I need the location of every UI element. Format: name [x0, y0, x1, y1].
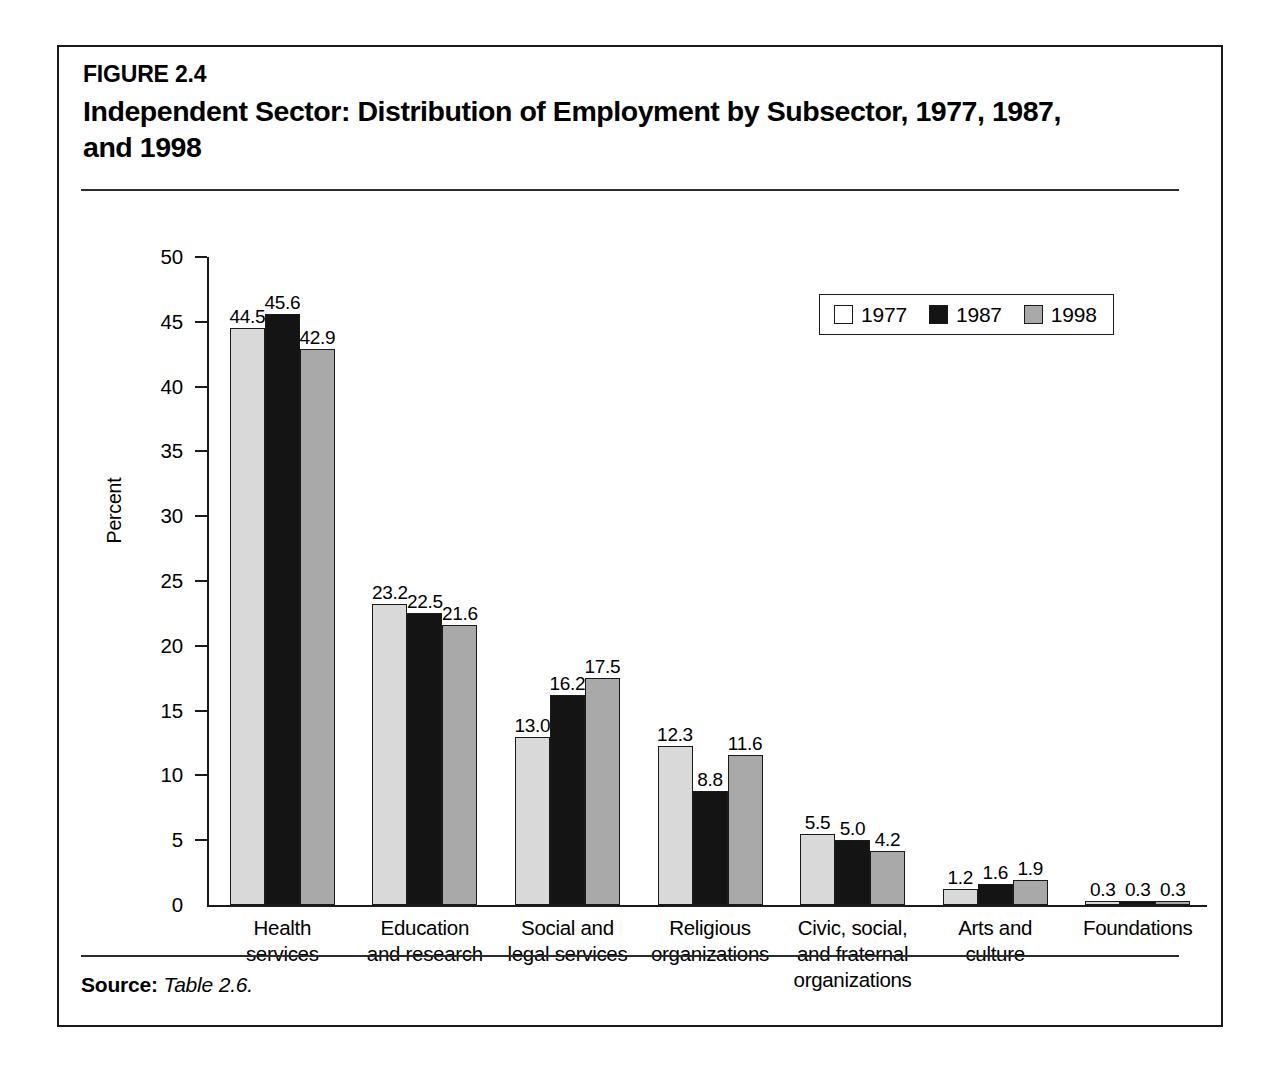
bar-value-label: 11.6	[728, 734, 762, 753]
y-axis-tick-label: 40	[121, 377, 183, 398]
category-label-line: Civic, social,	[781, 915, 924, 941]
y-axis-tick-label: 25	[121, 571, 183, 592]
title-divider	[81, 189, 1179, 191]
y-axis-tick-mark	[195, 580, 207, 582]
bar-1977-4: 12.3	[658, 746, 693, 905]
bar-value-label: 1.9	[1017, 859, 1043, 878]
bar-1987-3: 16.2	[550, 695, 585, 905]
y-axis-tick-label: 35	[121, 441, 183, 462]
bar-value-label: 22.5	[407, 592, 443, 611]
bar-value-label: 5.0	[840, 819, 866, 838]
bar-value-label: 5.5	[805, 813, 831, 832]
bar-1998-6: 1.9	[1013, 880, 1048, 905]
x-axis-category-label: Healthservices	[211, 915, 354, 967]
legend-item-1998: 1998	[1024, 304, 1097, 325]
bar-1977-5: 5.5	[800, 834, 835, 905]
legend-swatch-icon	[834, 305, 853, 324]
y-axis-tick-label: 45	[121, 312, 183, 333]
y-axis-tick-mark	[195, 645, 207, 647]
y-axis-tick-label: 5	[121, 830, 183, 851]
bar-1998-5: 4.2	[870, 851, 905, 905]
y-axis-tick-label: 20	[121, 636, 183, 657]
category-label-line: Health	[211, 915, 354, 941]
bar-value-label: 21.6	[442, 604, 478, 623]
bar-group: 0.30.30.3	[1085, 257, 1190, 905]
y-axis-tick-label: 0	[121, 895, 183, 916]
bar-value-label: 13.0	[515, 716, 551, 735]
y-axis-tick-mark	[195, 256, 207, 258]
source-note: Source: Table 2.6.	[81, 973, 253, 997]
bar-group: 1.21.61.9	[943, 257, 1048, 905]
bar-1987-7: 0.3	[1120, 901, 1155, 905]
x-axis-category-label: Foundations	[1066, 915, 1209, 941]
bar-1998-2: 21.6	[442, 625, 477, 905]
bar-1998-1: 42.9	[300, 349, 335, 905]
figure-number: FIGURE 2.4	[83, 61, 1173, 89]
y-axis-tick-label: 30	[121, 506, 183, 527]
source-divider	[81, 955, 1179, 957]
y-axis-tick-mark	[195, 386, 207, 388]
bar-value-label: 0.3	[1125, 880, 1151, 899]
y-axis-tick-mark	[195, 839, 207, 841]
bar-value-label: 16.2	[550, 674, 586, 693]
y-axis-tick-label: 10	[121, 765, 183, 786]
bar-value-label: 23.2	[372, 583, 408, 602]
legend-label: 1998	[1051, 304, 1097, 325]
category-label-line: Social and	[496, 915, 639, 941]
bar-1977-7: 0.3	[1085, 901, 1120, 905]
y-axis-tick-mark	[195, 515, 207, 517]
bar-value-label: 12.3	[657, 725, 693, 744]
y-axis-tick-label: 50	[121, 247, 183, 268]
bar-value-label: 45.6	[264, 293, 300, 312]
source-value: Table 2.6.	[158, 973, 253, 996]
y-axis-tick-mark	[195, 710, 207, 712]
bar-group: 12.38.811.6	[658, 257, 763, 905]
figure-header: FIGURE 2.4 Independent Sector: Distribut…	[83, 61, 1173, 166]
bar-value-label: 44.5	[229, 307, 265, 326]
bar-value-label: 1.6	[982, 863, 1008, 882]
y-axis-tick-mark	[195, 321, 207, 323]
category-label-line: Education	[354, 915, 497, 941]
figure-page: FIGURE 2.4 Independent Sector: Distribut…	[0, 0, 1279, 1090]
bar-1987-6: 1.6	[978, 884, 1013, 905]
figure-container: FIGURE 2.4 Independent Sector: Distribut…	[57, 45, 1223, 1027]
bar-group: 13.016.217.5	[515, 257, 620, 905]
chart-plot-area: Percent 05101520253035404550 44.545.642.…	[59, 199, 1221, 959]
bar-value-label: 42.9	[299, 328, 335, 347]
y-axis-tick-label: 15	[121, 701, 183, 722]
bar-1987-4: 8.8	[693, 791, 728, 905]
figure-title: Independent Sector: Distribution of Empl…	[83, 93, 1093, 166]
bar-1987-1: 45.6	[265, 314, 300, 905]
y-axis-tick-mark	[195, 774, 207, 776]
source-label: Source:	[81, 973, 158, 996]
x-axis-category-label: Religiousorganizations	[639, 915, 782, 967]
bar-value-label: 1.2	[947, 868, 973, 887]
x-axis-category-label: Arts andculture	[924, 915, 1067, 967]
category-label-line: Foundations	[1066, 915, 1209, 941]
bar-1987-5: 5.0	[835, 840, 870, 905]
bar-1977-6: 1.2	[943, 889, 978, 905]
bar-value-label: 8.8	[697, 770, 723, 789]
legend-swatch-icon	[1024, 305, 1043, 324]
bar-group: 44.545.642.9	[230, 257, 335, 905]
category-label-line: organizations	[781, 967, 924, 993]
bar-1987-2: 22.5	[407, 613, 442, 905]
y-axis-tick-mark	[195, 450, 207, 452]
x-axis-category-label: Educationand research	[354, 915, 497, 967]
bar-1998-3: 17.5	[585, 678, 620, 905]
category-label-line: Religious	[639, 915, 782, 941]
category-label-line: Arts and	[924, 915, 1067, 941]
legend-item-1987: 1987	[929, 304, 1002, 325]
bar-1977-3: 13.0	[515, 737, 550, 905]
legend-item-1977: 1977	[834, 304, 907, 325]
bar-value-label: 4.2	[875, 830, 901, 849]
bar-1977-2: 23.2	[372, 604, 407, 905]
bar-1998-4: 11.6	[728, 755, 763, 905]
bars-layer: 44.545.642.923.222.521.613.016.217.512.3…	[209, 257, 1207, 905]
legend-label: 1987	[956, 304, 1002, 325]
bar-value-label: 0.3	[1090, 880, 1116, 899]
legend-swatch-icon	[929, 305, 948, 324]
bar-value-label: 0.3	[1160, 880, 1186, 899]
bar-group: 5.55.04.2	[800, 257, 905, 905]
x-axis-line	[207, 905, 1207, 907]
